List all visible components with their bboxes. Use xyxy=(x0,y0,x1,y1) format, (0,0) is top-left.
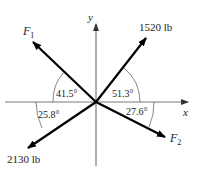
label-f1: F1 xyxy=(22,24,34,40)
angle-label-25-8: 25.8° xyxy=(38,109,60,120)
angle-label-27-6: 27.6° xyxy=(126,106,148,117)
label-1520: 1520 lb xyxy=(139,21,173,33)
diagram-canvas: y x F1 1520 lb 2130 lb F2 41.5° 51.3° 25… xyxy=(0,0,200,175)
angle-arc-27-6 xyxy=(149,102,154,127)
force-diagram: y x F1 1520 lb 2130 lb F2 41.5° 51.3° 25… xyxy=(0,0,200,175)
angle-label-51-3: 51.3° xyxy=(112,88,134,99)
angle-label-41-5: 41.5° xyxy=(56,88,78,99)
x-axis-label: x xyxy=(182,106,188,118)
label-2130: 2130 lb xyxy=(7,153,41,165)
y-axis-label: y xyxy=(87,11,93,23)
label-f2: F2 xyxy=(169,131,181,147)
